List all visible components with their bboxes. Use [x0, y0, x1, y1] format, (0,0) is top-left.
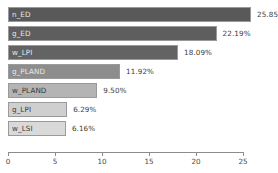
bar-chart: n_ED25.85%g_ED22.19%w_LPI18.09%g_PLAND11…	[0, 0, 278, 173]
x-axis-tick-label: 10	[97, 157, 106, 166]
bar-category-label: w_LSI	[12, 121, 33, 136]
bar[interactable]	[8, 7, 251, 22]
x-axis-tick-label: 5	[53, 157, 58, 166]
bar-category-label: g_ED	[12, 26, 31, 41]
bar-category-label: w_PLAND	[12, 83, 47, 98]
bar-value-label: 22.19%	[223, 26, 251, 41]
bar-value-label: 6.16%	[72, 121, 95, 136]
bar[interactable]	[8, 45, 178, 60]
bar-value-label: 25.85%	[257, 7, 278, 22]
bar-category-label: g_PLAND	[12, 64, 45, 79]
bar-value-label: 11.92%	[126, 64, 154, 79]
x-axis-tick	[243, 152, 244, 156]
plot-area: n_ED25.85%g_ED22.19%w_LPI18.09%g_PLAND11…	[0, 0, 278, 152]
bar[interactable]	[8, 26, 217, 41]
bar-value-label: 18.09%	[184, 45, 212, 60]
x-axis-tick-label: 0	[6, 157, 11, 166]
bar-category-label: n_ED	[12, 7, 31, 22]
x-axis-tick	[196, 152, 197, 156]
bar-value-label: 9.50%	[103, 83, 126, 98]
x-axis-tick	[8, 152, 9, 156]
x-axis-tick	[102, 152, 103, 156]
x-axis-tick-label: 20	[191, 157, 200, 166]
x-axis-tick-label: 25	[238, 157, 247, 166]
bar-category-label: g_LPI	[12, 102, 31, 117]
x-axis-tick-label: 15	[144, 157, 153, 166]
x-axis-line	[8, 152, 244, 153]
x-axis-tick	[149, 152, 150, 156]
bar-value-label: 6.29%	[73, 102, 96, 117]
x-axis-tick	[55, 152, 56, 156]
bar-category-label: w_LPI	[12, 45, 32, 60]
